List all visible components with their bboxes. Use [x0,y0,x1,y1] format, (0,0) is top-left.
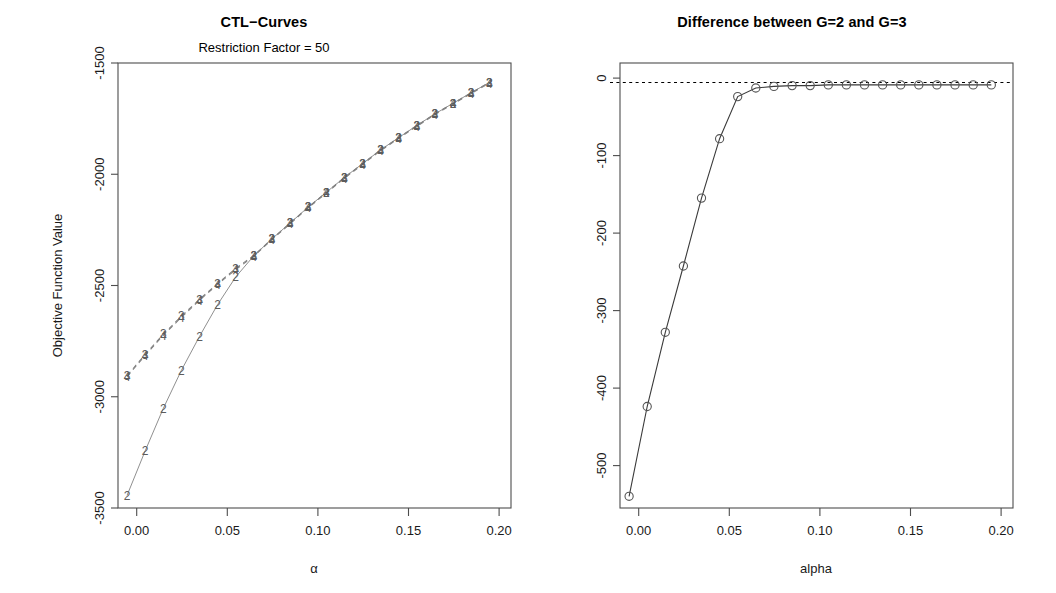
point-marker-4: 4 [395,132,402,146]
figure-canvas: CTL−Curves Restriction Factor = 50 -3500… [0,0,1056,593]
x-tick-label-right-0: 0.00 [626,523,651,538]
y-tick-label-left-1: -3000 [92,380,107,413]
y-tick-label-right-2: -300 [594,298,609,324]
point-marker-4: 4 [142,349,149,363]
curve-G4 [127,83,489,376]
point-marker-2: 2 [142,444,149,458]
x-axis-title-left: α [310,561,318,576]
x-tick-label-left-1: 0.05 [215,523,240,538]
series-group-right [610,81,1013,501]
x-tick-label-left-4: 0.20 [486,523,511,538]
point-marker-2: 2 [178,364,185,378]
series-group-left: 2222222222222222222223333333333333333333… [124,76,493,503]
point-marker-4: 4 [124,370,131,384]
difference-curve [629,85,991,496]
point-marker-2: 2 [124,489,131,503]
y-tick-label-right-4: -100 [594,143,609,169]
point-marker-4: 4 [287,217,294,231]
x-tick-label-left-3: 0.15 [396,523,421,538]
curve-G3 [127,83,489,376]
point-marker-2: 2 [196,330,203,344]
y-tick-label-left-0: -3500 [92,491,107,524]
y-tick-label-left-3: -2000 [92,158,107,191]
plot-box-right [620,63,1013,508]
plot-area-difference: -500 -400 -300 -200 -100 0 0.00 0.05 0.1… [528,0,1056,593]
point-marker-4: 4 [196,294,203,308]
point-marker-4: 4 [160,329,167,343]
y-axis-right: -500 -400 -300 -200 -100 0 [594,74,620,478]
panel-ctl-curves: CTL−Curves Restriction Factor = 50 -3500… [0,0,528,593]
x-axis-title-right: alpha [800,561,833,576]
point-marker-2: 2 [214,298,221,312]
point-marker-4: 4 [178,311,185,325]
x-axis-right: 0.00 0.05 0.10 0.15 0.20 [626,508,1014,538]
point-marker-4: 4 [377,144,384,158]
y-tick-label-left-2: -2500 [92,269,107,302]
point-marker-4: 4 [450,97,457,111]
plot-area-ctl-curves: -3500 -3000 -2500 -2000 -1500 0.00 0.05 … [0,0,528,593]
y-axis-title-left: Objective Function Value [50,214,65,358]
x-tick-label-left-2: 0.10 [305,523,330,538]
point-marker-4: 4 [214,278,221,292]
point-marker-4: 4 [269,233,276,247]
x-tick-label-left-0: 0.00 [124,523,149,538]
y-tick-label-right-0: -500 [594,453,609,479]
point-marker-4: 4 [486,77,493,91]
x-tick-label-right-4: 0.20 [988,523,1013,538]
point-marker-2: 2 [160,402,167,416]
point-marker-4: 4 [413,120,420,134]
y-tick-label-left-4: -1500 [92,46,107,79]
curve-G2 [127,83,489,496]
x-tick-label-right-2: 0.10 [807,523,832,538]
plot-box-left [118,63,511,508]
point-marker-4: 4 [359,158,366,172]
point-marker-4: 4 [341,172,348,186]
point-marker-4: 4 [232,263,239,277]
x-tick-label-right-3: 0.15 [898,523,923,538]
point-marker-4: 4 [323,186,330,200]
x-axis-left: 0.00 0.05 0.10 0.15 0.20 [124,508,512,538]
y-tick-label-right-3: -200 [594,220,609,246]
point-marker-4: 4 [250,250,257,264]
x-tick-label-right-1: 0.05 [717,523,742,538]
data-point-marker [625,492,633,500]
y-axis-left: -3500 -3000 -2500 -2000 -1500 [92,46,118,524]
point-marker-4: 4 [468,87,475,101]
point-marker-4: 4 [432,108,439,122]
point-marker-4: 4 [305,201,312,215]
y-tick-label-right-5: 0 [594,74,609,81]
y-tick-label-right-1: -400 [594,375,609,401]
panel-difference: Difference between G=2 and G=3 -500 -400… [528,0,1056,593]
